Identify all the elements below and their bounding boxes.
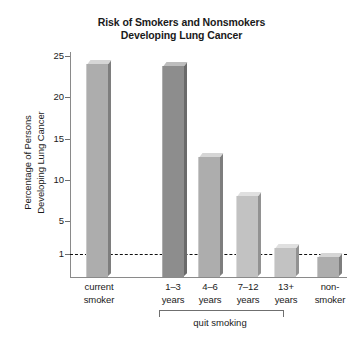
bar-quit-4-6-years bbox=[198, 157, 219, 277]
x-label-non-smoker: non- smoker bbox=[299, 281, 361, 306]
x-label-line-2: smoker bbox=[299, 294, 361, 307]
quit-smoking-bracket bbox=[159, 310, 284, 317]
bar-front-face bbox=[317, 257, 339, 277]
bar-front-face bbox=[86, 64, 108, 277]
bar-front-face bbox=[236, 196, 258, 277]
bar-front-face bbox=[274, 248, 296, 277]
bar-top-face bbox=[318, 253, 342, 257]
chart-title-line-2: Developing Lung Cancer bbox=[0, 29, 363, 42]
bar-front-face bbox=[198, 157, 220, 277]
chart-title-line-1: Risk of Smokers and Nonsmokers bbox=[0, 16, 363, 29]
y-axis-title-line-1: Percentage of Persons bbox=[22, 63, 35, 263]
bar-series bbox=[70, 52, 347, 277]
x-label-current-smoker: current smoker bbox=[66, 281, 132, 306]
y-tick-label-5: 5 bbox=[42, 216, 64, 226]
y-tick-label-10: 10 bbox=[42, 175, 64, 185]
bar-top-face bbox=[163, 62, 187, 66]
bar-top-face bbox=[87, 60, 111, 64]
x-label-line-1: current bbox=[66, 281, 132, 294]
chart-title: Risk of Smokers and Nonsmokers Developin… bbox=[0, 16, 363, 42]
y-tick-label-1: 1 bbox=[42, 249, 64, 259]
x-label-line-2: smoker bbox=[66, 294, 132, 307]
bar-top-face bbox=[275, 244, 299, 248]
x-axis-line bbox=[70, 277, 347, 278]
y-tick-label-25: 25 bbox=[42, 51, 64, 61]
bar-quit-13-plus-years bbox=[274, 248, 295, 277]
bar-current-smoker bbox=[86, 64, 107, 277]
bar-quit-7-12-years bbox=[236, 196, 257, 277]
x-label-line-1: non- bbox=[299, 281, 361, 294]
bar-quit-1-3-years bbox=[162, 66, 183, 277]
y-tick-label-20: 20 bbox=[42, 92, 64, 102]
lung-cancer-risk-bar-chart: Risk of Smokers and Nonsmokers Developin… bbox=[0, 0, 363, 337]
quit-smoking-bracket-label: quit smoking bbox=[120, 317, 320, 328]
bar-top-face bbox=[199, 153, 223, 157]
bar-non-smoker bbox=[317, 257, 338, 277]
bar-front-face bbox=[162, 66, 184, 277]
bar-top-face bbox=[237, 192, 261, 196]
y-tick-label-15: 15 bbox=[42, 134, 64, 144]
